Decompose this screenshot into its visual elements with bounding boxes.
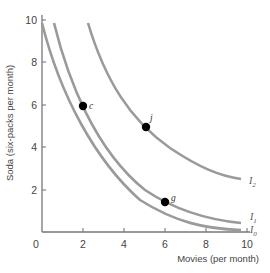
y-axis-title: Soda (six-packs per month) [4,65,15,181]
y-tick-label-4: 4 [31,141,37,153]
y-tick-label-6: 6 [31,99,37,111]
curve-label-i1: I1 [249,211,257,225]
x-tick-label-10: 10 [241,238,253,250]
point-label-g: g [171,193,176,203]
x-tick-label-8: 8 [203,238,209,250]
curve-label-i2: I2 [248,175,256,189]
curve-label-i0: I0 [249,224,257,238]
point-c [79,102,87,110]
point-g [161,198,169,206]
point-label-c: c [89,101,94,111]
x-tick-label-2: 2 [80,238,86,250]
origin-label: 0 [33,238,39,250]
y-tick-label-10: 10 [25,14,37,26]
y-tick-label-2: 2 [31,184,37,196]
x-axis-title: Movies (per month) [177,253,259,264]
indifference-curve-chart: 10 8 6 4 2 0 2 4 6 8 10 Movies (per mont… [0,0,270,273]
curve-i0 [42,23,241,230]
point-label-j: j [148,113,153,123]
point-j [142,123,150,131]
x-tick-label-4: 4 [121,238,127,250]
x-tick-label-6: 6 [162,238,168,250]
y-tick-label-8: 8 [31,56,37,68]
